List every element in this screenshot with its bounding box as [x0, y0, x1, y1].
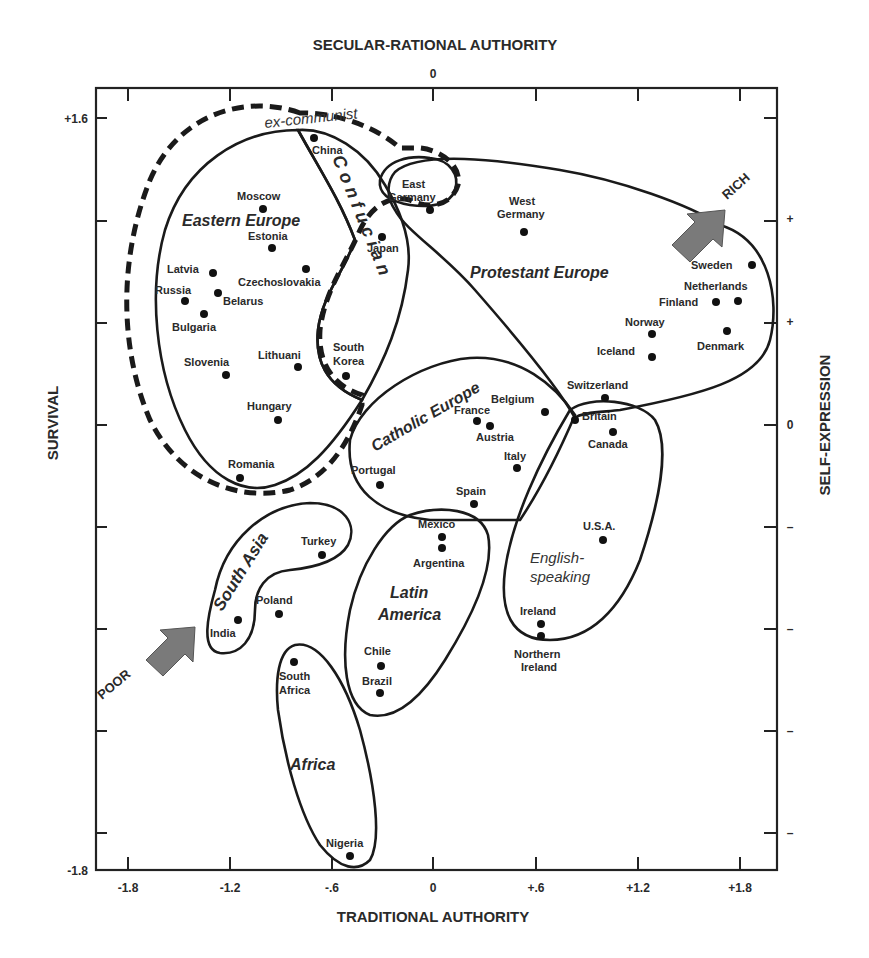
label-finland: Finland: [659, 296, 698, 308]
label-northern-ireland-line1: Northern: [514, 648, 561, 660]
label-mexico: Mexico: [418, 518, 456, 530]
point-spain: [470, 500, 478, 508]
point-hungary: [274, 416, 282, 424]
label-canada: Canada: [588, 438, 629, 450]
label-slovenia: Slovenia: [184, 356, 230, 368]
label-moscow: Moscow: [237, 190, 281, 202]
label-northern-ireland-line2: Ireland: [521, 661, 557, 673]
label-iceland: Iceland: [597, 345, 635, 357]
english-speaking-label-line1: English-: [530, 549, 584, 566]
right-ticks: [764, 118, 777, 833]
point-poland: [275, 610, 283, 618]
point-switzerland: [601, 394, 609, 402]
label-czechoslovakia: Czechoslovakia: [238, 276, 321, 288]
top-ticks: [128, 88, 740, 101]
label-brazil: Brazil: [362, 675, 392, 687]
point-britain: [571, 416, 579, 424]
right-tick-labels: + + 0 – – – –: [786, 212, 793, 840]
point-japan: [378, 233, 386, 241]
point-denmark: [723, 327, 731, 335]
point-argentina: [438, 544, 446, 552]
label-britain: Britain: [582, 410, 617, 422]
point-france: [473, 417, 481, 425]
label-italy: Italy: [504, 450, 527, 462]
label-argentina: Argentina: [413, 557, 465, 569]
point-canada: [609, 428, 617, 436]
cultural-map-chart: SECULAR-RATIONAL AUTHORITY 0 TRADITIONAL…: [0, 0, 869, 958]
label-belgium: Belgium: [491, 393, 535, 405]
point-belgium: [541, 408, 549, 416]
point-ireland: [537, 620, 545, 628]
y-right-tick-label: –: [787, 622, 794, 636]
label-nigeria: Nigeria: [326, 837, 364, 849]
label-hungary: Hungary: [247, 400, 293, 412]
x-tick-label: -1.2: [220, 881, 241, 895]
point-turkey: [318, 551, 326, 559]
point-italy: [513, 464, 521, 472]
label-netherlands: Netherlands: [684, 280, 748, 292]
point-nigeria: [346, 852, 354, 860]
point-sweden: [748, 261, 756, 269]
bottom-tick-labels: -1.8 -1.2 -.6 0 +.6 +1.2 +1.8: [118, 881, 753, 895]
point-finland: [712, 298, 720, 306]
point-netherlands: [734, 297, 742, 305]
english-speaking-label-line2: speaking: [530, 568, 591, 585]
protestant-europe-label: Protestant Europe: [470, 264, 609, 281]
label-chile: Chile: [364, 645, 391, 657]
point-bulgaria: [200, 310, 208, 318]
y-right-tick-label: 0: [787, 418, 794, 432]
label-south-korea-line2: Korea: [333, 355, 365, 367]
label-denmark: Denmark: [697, 340, 745, 352]
point-moscow: [259, 205, 267, 213]
latin-america-label-line1: Latin: [390, 584, 428, 601]
point-west-germany: [520, 228, 528, 236]
confucian-label: Confucian: [328, 152, 396, 283]
point-east-germany: [426, 206, 434, 214]
label-portugal: Portugal: [351, 464, 396, 476]
point-south-africa: [290, 658, 298, 666]
x-tick-label: -.6: [325, 881, 339, 895]
label-india: India: [210, 627, 237, 639]
label-east-germany-line1: East: [402, 178, 426, 190]
point-india: [234, 616, 242, 624]
point-china: [310, 134, 318, 142]
point-russia: [181, 297, 189, 305]
left-tick-bottom: -1.8: [67, 864, 88, 878]
label-belarus: Belarus: [223, 295, 263, 307]
label-bulgaria: Bulgaria: [172, 321, 217, 333]
poor-arrow-icon: [146, 627, 195, 676]
point-romania: [236, 474, 244, 482]
bottom-ticks: [128, 857, 740, 870]
label-norway: Norway: [625, 316, 666, 328]
label-japan: Japan: [367, 242, 399, 254]
point-czechoslovakia: [302, 265, 310, 273]
top-zero-tick: 0: [430, 67, 437, 81]
left-ticks: [96, 118, 107, 833]
point-chile: [377, 662, 385, 670]
point-austria: [486, 422, 494, 430]
x-tick-label: +.6: [527, 881, 544, 895]
label-switzerland: Switzerland: [567, 379, 628, 391]
label-estonia: Estonia: [248, 230, 289, 242]
label-lithuania: Lithuani: [258, 349, 301, 361]
point-northern-ireland: [537, 632, 545, 640]
label-china: China: [312, 144, 343, 156]
point-norway: [648, 330, 656, 338]
left-axis-title: SURVIVAL: [44, 386, 61, 460]
y-right-tick-label: –: [787, 724, 794, 738]
bottom-axis-title: TRADITIONAL AUTHORITY: [337, 908, 530, 925]
point-latvia: [209, 269, 217, 277]
right-axis-title: SELF-EXPRESSION: [816, 355, 833, 496]
point-south-korea: [342, 372, 350, 380]
x-tick-label: +1.8: [728, 881, 752, 895]
rich-label: RICH: [719, 170, 753, 202]
data-points: [181, 134, 756, 860]
label-east-germany-line2: Germany: [388, 191, 437, 203]
label-sweden: Sweden: [691, 259, 733, 271]
point-portugal: [376, 481, 384, 489]
label-west-germany-line2: Germany: [497, 208, 546, 220]
point-mexico: [438, 533, 446, 541]
x-tick-label: -1.8: [118, 881, 139, 895]
x-tick-label: +1.2: [626, 881, 650, 895]
label-usa: U.S.A.: [583, 520, 615, 532]
